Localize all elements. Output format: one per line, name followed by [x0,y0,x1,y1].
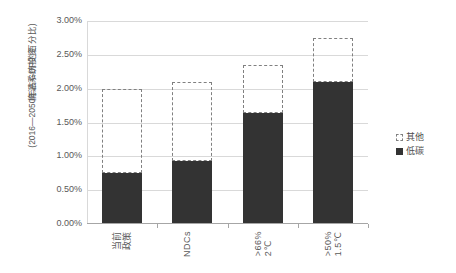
chart-container: 能源系统投资 (2016—2050年占GDP的百分比) 0.00%0.50%1.… [0,0,456,273]
plot-area [87,21,368,224]
bar-group[interactable] [313,21,353,224]
x-axis-tick [228,224,229,228]
bar-segment-lowcarbon[interactable] [243,113,283,224]
x-axis-tick [368,224,369,228]
x-axis-tick [157,224,158,228]
bar-segment-other[interactable] [172,82,212,161]
y-axis-tick-label: 0.50% [36,184,82,194]
y-axis-tick-label: 2.50% [36,49,82,59]
bar-segment-lowcarbon[interactable] [313,82,353,224]
y-axis-tick-label: 1.00% [36,150,82,160]
bar-segment-other[interactable] [102,89,142,174]
legend-item-lowcarbon[interactable]: 低碳 [396,144,424,158]
y-axis-tick-label: 1.50% [36,117,82,127]
bar-segment-lowcarbon[interactable] [172,161,212,224]
y-axis-tick-label: 2.00% [36,83,82,93]
x-axis-tick-label: NDCs [182,231,192,257]
x-axis-tick-label: >66%2℃ [253,231,273,256]
bar-group[interactable] [243,21,283,224]
bar-group[interactable] [102,21,142,224]
y-axis-tick-label: 3.00% [36,15,82,25]
bar-segment-lowcarbon[interactable] [102,173,142,224]
bar-segment-other[interactable] [313,38,353,82]
legend-swatch-other-icon [396,134,403,141]
x-axis-tick [298,224,299,228]
legend-swatch-lowcarbon-icon [396,148,403,155]
legend-label-other: 其他 [406,133,424,142]
x-axis-tick-label: 当前政策 [112,231,132,250]
chart-legend: 其他 低碳 [396,130,424,158]
x-axis-tick-label: >50%1.5℃ [323,231,343,256]
bar-segment-other[interactable] [243,65,283,113]
legend-label-lowcarbon: 低碳 [406,147,424,156]
y-axis-line [87,21,88,224]
bar-group[interactable] [172,21,212,224]
y-axis-tick-label: 0.00% [36,218,82,228]
legend-item-other[interactable]: 其他 [396,130,424,144]
